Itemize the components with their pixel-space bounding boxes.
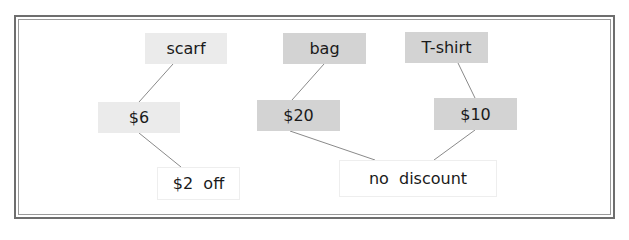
node-price-tshirt: $10	[434, 98, 517, 130]
node-bag: bag	[283, 33, 366, 64]
node-result-no-discount: no discount	[339, 160, 497, 197]
node-price-bag: $20	[257, 100, 340, 131]
edge-tshirt-to-10	[458, 63, 475, 98]
node-result-2-off: $2 off	[157, 167, 240, 200]
edge-20-to-nodiscount	[290, 131, 375, 160]
node-tshirt: T-shirt	[405, 32, 488, 63]
edge-10-to-nodiscount	[434, 130, 475, 160]
edge-scarf-to-6	[139, 64, 173, 102]
node-scarf: scarf	[145, 33, 227, 64]
edge-6-to-2off	[139, 133, 181, 167]
edge-bag-to-20	[292, 64, 324, 100]
node-price-scarf: $6	[98, 102, 180, 133]
